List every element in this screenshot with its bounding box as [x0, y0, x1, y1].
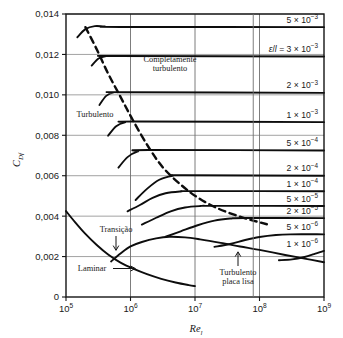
y-tick-label: 0,008 [35, 130, 59, 141]
y-tick-label: 0,014 [35, 8, 59, 19]
y-tick-label: 0,010 [35, 89, 59, 100]
annotation-turbulento-placa-lisa: Turbulentoplaca lisa [220, 268, 257, 286]
y-tick-label: 0,006 [35, 170, 59, 181]
annotation-transicao: Transição [100, 225, 133, 234]
chart-canvas: 00,0020,0040,0060,0080,0100,0120,0141051… [0, 0, 343, 338]
y-tick-label: 0,012 [35, 49, 59, 60]
annotation-laminar: Laminar [78, 264, 107, 273]
annotation-turbulento: Turbulento [77, 110, 114, 119]
y-tick-label: 0,004 [35, 211, 59, 222]
y-tick-label: 0,002 [35, 251, 59, 262]
y-tick-label: 0 [54, 291, 59, 302]
skin-friction-chart: 00,0020,0040,0060,0080,0100,0120,0141051… [0, 0, 343, 338]
